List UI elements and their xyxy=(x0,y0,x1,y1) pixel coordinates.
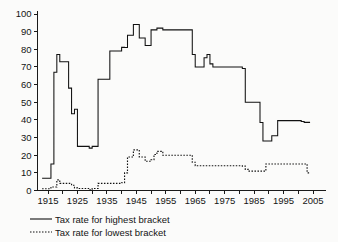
series-highest-bracket-line xyxy=(42,25,310,179)
x-tick-label: 1925 xyxy=(67,195,88,206)
y-tick-label: 30 xyxy=(21,132,32,143)
y-axis-ticks: 0102030405060708090100 xyxy=(16,8,38,196)
x-axis-ticks: 1915192519351945195519651975198519952005 xyxy=(37,191,323,207)
x-tick-label: 1915 xyxy=(37,195,58,206)
legend-label-highest-bracket: Tax rate for highest bracket xyxy=(55,214,170,225)
x-tick-label: 1945 xyxy=(126,195,147,206)
y-tick-label: 50 xyxy=(21,97,32,108)
y-tick-label: 60 xyxy=(21,79,32,90)
x-tick-label: 1995 xyxy=(273,195,294,206)
x-tick-label: 1985 xyxy=(244,195,265,206)
y-tick-label: 10 xyxy=(21,167,32,178)
y-tick-label: 70 xyxy=(21,61,32,72)
x-tick-label: 1965 xyxy=(185,195,206,206)
tax-rate-line-chart: 0102030405060708090100 19151925193519451… xyxy=(0,0,338,242)
y-tick-label: 80 xyxy=(21,44,32,55)
x-tick-label: 1935 xyxy=(96,195,117,206)
chart-canvas: 0102030405060708090100 19151925193519451… xyxy=(0,0,338,242)
x-tick-label: 1955 xyxy=(155,195,176,206)
series-lowest-bracket-line xyxy=(42,150,310,190)
y-tick-label: 100 xyxy=(16,8,32,19)
y-tick-label: 90 xyxy=(21,26,32,37)
x-tick-label: 2005 xyxy=(302,195,323,206)
x-tick-label: 1975 xyxy=(214,195,235,206)
legend-label-lowest-bracket: Tax rate for lowest bracket xyxy=(55,227,166,238)
y-tick-label: 40 xyxy=(21,114,32,125)
y-tick-label: 20 xyxy=(21,150,32,161)
y-tick-label: 0 xyxy=(26,185,31,196)
chart-legend: Tax rate for highest bracket Tax rate fo… xyxy=(30,214,170,238)
